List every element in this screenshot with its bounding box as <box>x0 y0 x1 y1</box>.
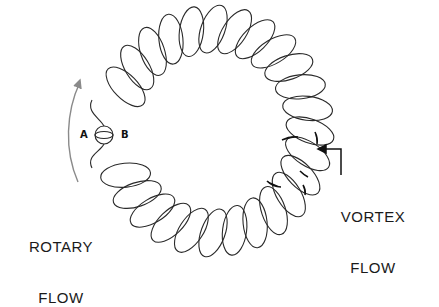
junction-loop <box>95 126 113 144</box>
coil-loop <box>100 61 152 114</box>
gap-junction <box>91 100 113 168</box>
rotary-flow-line2: FLOW <box>18 289 104 306</box>
coil-loop <box>274 149 326 202</box>
rotary-flow-label: ROTARY FLOW <box>18 204 104 307</box>
coil-loops <box>100 2 338 261</box>
lead-wire-bottom <box>91 144 104 168</box>
coil-loop <box>100 161 152 190</box>
point-b-label: B <box>121 129 129 140</box>
vortex-flow-line2: FLOW <box>330 259 416 276</box>
point-a-label: A <box>80 129 88 140</box>
coil-loop <box>168 203 215 258</box>
coil-loop <box>114 40 161 95</box>
coil-loop <box>145 197 198 249</box>
rotary-flow-line1: ROTARY <box>18 238 104 255</box>
vortex-flow-line1: VORTEX <box>330 208 416 225</box>
junction-loop-inner <box>95 132 113 139</box>
coil-loop <box>125 187 180 234</box>
vortex-flow-label: VORTEX FLOW <box>330 174 416 293</box>
coil-loop <box>229 13 282 65</box>
coil-loop <box>282 111 337 151</box>
lead-wire-top <box>91 100 104 126</box>
coil-loop <box>274 72 326 101</box>
coil-loop <box>211 4 258 59</box>
coil-loop <box>246 28 301 75</box>
